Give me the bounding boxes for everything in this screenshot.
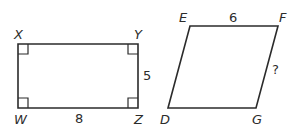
right-angle-mark-y: [128, 44, 138, 54]
vertex-label-y: Y: [134, 27, 143, 42]
side-length-ef: 6: [229, 10, 237, 25]
vertex-label-w: W: [14, 112, 28, 127]
vertex-label-z: Z: [133, 112, 144, 127]
vertex-label-f: F: [279, 10, 287, 25]
side-length-wz: 8: [75, 111, 83, 126]
rectangle-outline: [18, 44, 138, 108]
vertex-label-g: G: [252, 112, 262, 127]
right-angle-mark-w: [18, 98, 28, 108]
right-angle-mark-x: [18, 44, 28, 54]
vertex-label-d: D: [160, 112, 170, 127]
vertex-label-e: E: [179, 10, 188, 25]
side-length-yz: 5: [143, 68, 151, 83]
geometry-diagram: X Y W Z 5 8 E F D G 6 ?: [0, 0, 294, 129]
vertex-label-x: X: [13, 27, 24, 42]
side-length-fg-unknown: ?: [272, 62, 279, 77]
rectangle-figure: X Y W Z 5 8: [13, 27, 151, 127]
parallelogram-outline: [168, 26, 278, 108]
parallelogram-figure: E F D G 6 ?: [160, 10, 287, 127]
right-angle-mark-z: [128, 98, 138, 108]
